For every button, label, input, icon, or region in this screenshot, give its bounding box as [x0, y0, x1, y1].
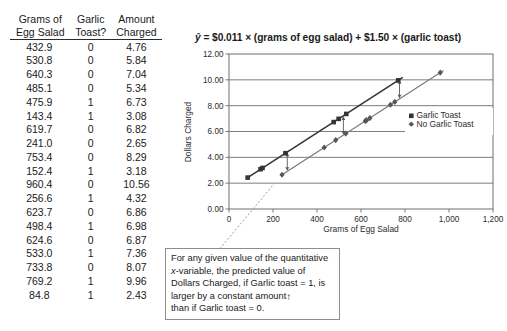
table-cell: 1 [71, 164, 111, 178]
table-cell: 498.4 [10, 219, 71, 233]
table-cell: 5.84 [111, 54, 162, 68]
callout-line-3: Dollars Charged, if Garlic toast = 1, is [171, 277, 335, 290]
table-cell: 0 [71, 68, 111, 82]
table-cell: 530.8 [10, 54, 71, 68]
equation-body: = $0.011 × (grams of egg salad) + $1.50 … [201, 32, 461, 43]
table-cell: 1 [71, 95, 111, 109]
table-row: 623.706.86 [10, 205, 162, 219]
table-row: 624.606.87 [10, 233, 162, 247]
y-axis-tick-label: 0.00 [208, 205, 224, 214]
regression-chart-panel: ŷ = $0.011 × (grams of egg salad) + $1.5… [178, 0, 507, 260]
y-axis-tick-label: 10.00 [203, 76, 224, 85]
table-cell: 1 [71, 192, 111, 206]
table-cell: 143.4 [10, 109, 71, 123]
table-cell: 8.29 [111, 150, 162, 164]
y-axis-tick-label: 2.00 [208, 179, 224, 188]
table-cell: 9.96 [111, 274, 162, 288]
table-cell: 1 [71, 288, 111, 302]
callout-up-arrow-icon: ↑ [286, 291, 291, 302]
table-cell: 4.76 [111, 40, 162, 54]
table-row: 84.812.43 [10, 288, 162, 302]
y-axis-tick-label: 8.00 [208, 102, 224, 111]
table-cell: 432.9 [10, 40, 71, 54]
table-cell: 0 [71, 40, 111, 54]
y-axis-tick-label: 4.00 [208, 153, 224, 162]
x-axis-tick-label: 200 [266, 215, 280, 224]
table-body: 432.904.76530.805.84640.307.04485.105.34… [10, 40, 162, 302]
x-axis-title: Grams of Egg Salad [323, 224, 399, 234]
table-row: 769.219.96 [10, 274, 162, 288]
callout-line-4: larger by a constant amount↑ [171, 290, 335, 303]
table-cell: 1 [71, 247, 111, 261]
table-cell: 533.0 [10, 247, 71, 261]
egg-salad-data-table: Grams of Egg Salad Garlic Toast? Amount … [10, 13, 162, 302]
table-header: Grams of Egg Salad Garlic Toast? Amount … [10, 13, 162, 40]
chart-legend: Garlic Toast No Garlic Toast [405, 108, 493, 135]
table-cell: 960.4 [10, 178, 71, 192]
table-cell: 6.98 [111, 219, 162, 233]
table-cell: 485.1 [10, 81, 71, 95]
table-cell: 152.4 [10, 164, 71, 178]
data-point-garlic-toast [396, 78, 401, 83]
table-row: 152.413.18 [10, 164, 162, 178]
column-header-grams-of-egg-salad: Grams of Egg Salad [10, 13, 71, 40]
callout-line-4-text: larger by a constant amount [171, 291, 286, 301]
callout-line-2-rest: -variable, the predicted value of [176, 266, 306, 276]
table-row: 241.002.65 [10, 136, 162, 150]
table-cell: 624.6 [10, 233, 71, 247]
x-axis-tick-label: 800 [398, 215, 412, 224]
table-row: 485.105.34 [10, 81, 162, 95]
data-point-garlic-toast [245, 175, 250, 180]
table-cell: 769.2 [10, 274, 71, 288]
table-cell: 1 [71, 219, 111, 233]
table-row: 475.916.73 [10, 95, 162, 109]
data-table-element: Grams of Egg Salad Garlic Toast? Amount … [10, 13, 162, 302]
table-cell: 3.08 [111, 109, 162, 123]
table-cell: 753.4 [10, 150, 71, 164]
table-cell: 1 [71, 274, 111, 288]
data-point-garlic-toast [283, 151, 288, 156]
callout-line-5: than if Garlic toast = 0. [171, 302, 335, 315]
table-cell: 0 [71, 150, 111, 164]
scatter-plot-svg: 0.002.004.006.008.0010.0012.00 020040060… [178, 46, 507, 260]
table-cell: 6.87 [111, 233, 162, 247]
table-row: 533.017.36 [10, 247, 162, 261]
table-cell: 5.34 [111, 81, 162, 95]
table-cell: 241.0 [10, 136, 71, 150]
table-cell: 619.7 [10, 123, 71, 137]
table-cell: 623.7 [10, 205, 71, 219]
table-cell: 10.56 [111, 178, 162, 192]
table-row: 640.307.04 [10, 68, 162, 82]
table-cell: 475.9 [10, 95, 71, 109]
callout-textbox: For any given value of the quantitative … [165, 248, 340, 320]
column-header-garlic-toast: Garlic Toast? [71, 13, 111, 40]
y-axis-tick-label: 6.00 [208, 127, 224, 136]
table-cell: 733.8 [10, 261, 71, 275]
table-cell: 256.6 [10, 192, 71, 206]
table-cell: 2.65 [111, 136, 162, 150]
table-row: 498.416.98 [10, 219, 162, 233]
table-cell: 0 [71, 261, 111, 275]
legend-label-no-garlic-toast: No Garlic Toast [417, 119, 475, 129]
table-cell: 0 [71, 233, 111, 247]
table-cell: 7.04 [111, 68, 162, 82]
table-cell: 0 [71, 136, 111, 150]
table-row: 530.805.84 [10, 54, 162, 68]
x-axis-tick-label: 400 [310, 215, 324, 224]
table-cell: 0 [71, 205, 111, 219]
table-row: 256.614.32 [10, 192, 162, 206]
table-cell: 1 [71, 109, 111, 123]
table-cell: 0 [71, 81, 111, 95]
column-header-amount-charged: Amount Charged [111, 13, 162, 40]
table-cell: 8.07 [111, 261, 162, 275]
x-axis-tick-label: 1,000 [439, 215, 460, 224]
table-cell: 84.8 [10, 288, 71, 302]
callout-line-1: For any given value of the quantitative [171, 252, 335, 265]
table-cell: 3.18 [111, 164, 162, 178]
table-cell: 0 [71, 178, 111, 192]
table-cell: 2.43 [111, 288, 162, 302]
table-cell: 6.82 [111, 123, 162, 137]
x-axis-tick-label: 1,200 [483, 215, 504, 224]
legend-marker-square-icon [409, 114, 414, 119]
table-cell: 640.3 [10, 68, 71, 82]
